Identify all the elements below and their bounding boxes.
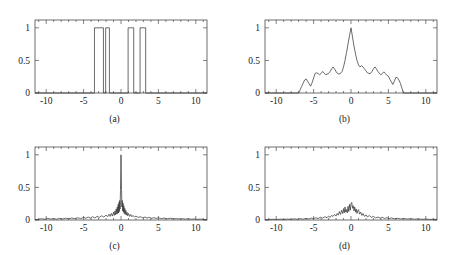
x-tick-label: -10: [40, 96, 53, 106]
y-tick-label: 0: [255, 88, 260, 98]
panel-a-yticklabels: 00.51: [18, 23, 30, 98]
x-tick-label: 10: [421, 223, 431, 233]
panel-a-xticks: [39, 20, 204, 93]
panel-c-yticklabels: 00.51: [18, 150, 30, 225]
x-tick-label: 0: [119, 223, 124, 233]
y-tick-label: 0.5: [18, 56, 30, 66]
panel-b-xticklabels: -10-50510: [270, 96, 431, 106]
panel-d-frame: [265, 147, 437, 220]
x-tick-label: 5: [156, 223, 161, 233]
panel-a-svg: -10-50510 00.51 (a): [0, 0, 229, 127]
panel-c-caption: (c): [109, 241, 120, 252]
panel-a-caption: (a): [109, 114, 120, 125]
y-tick-label: 0.5: [248, 183, 260, 193]
y-tick-label: 0.5: [248, 56, 260, 66]
figure-four-panel-signal-plots: -10-50510 00.51 (a) -10-50510 00.51 (b): [0, 0, 459, 255]
panel-d-yticklabels: 00.51: [248, 150, 260, 225]
panel-b: -10-50510 00.51 (b): [230, 0, 459, 127]
panel-c-axes: -10-50510 00.51: [18, 147, 207, 233]
panel-a: -10-50510 00.51 (a): [0, 0, 229, 127]
x-tick-label: 10: [191, 223, 201, 233]
y-tick-label: 1: [25, 23, 30, 33]
panel-b-yticklabels: 00.51: [248, 23, 260, 98]
x-tick-label: -5: [80, 223, 88, 233]
panel-c-xticklabels: -10-50510: [40, 223, 201, 233]
panel-d-xticks: [269, 147, 434, 220]
panel-b-frame: [265, 20, 437, 93]
x-tick-label: 0: [349, 96, 354, 106]
panel-d-yticks: [265, 155, 437, 220]
y-tick-label: 0.5: [18, 183, 30, 193]
y-tick-label: 0: [255, 215, 260, 225]
panel-d-xticklabels: -10-50510: [270, 223, 431, 233]
y-tick-label: 0: [25, 215, 30, 225]
panel-d-axes: -10-50510 00.51: [248, 147, 437, 233]
x-tick-label: -10: [270, 223, 283, 233]
x-tick-label: -10: [40, 223, 53, 233]
y-tick-label: 1: [25, 150, 30, 160]
panel-b-curve: [265, 28, 437, 93]
panel-a-curve: [35, 28, 207, 93]
x-tick-label: 10: [191, 96, 201, 106]
panel-b-caption: (b): [339, 114, 350, 125]
panel-b-xticks: [269, 20, 434, 93]
panel-a-yticks: [35, 28, 207, 93]
y-tick-label: 0: [25, 88, 30, 98]
x-tick-label: -5: [310, 96, 318, 106]
x-tick-label: -10: [270, 96, 283, 106]
panel-a-frame: [35, 20, 207, 93]
panel-d-svg: -10-50510 00.51 (d): [230, 127, 459, 254]
panel-d: -10-50510 00.51 (d): [230, 127, 459, 254]
x-tick-label: -5: [310, 223, 318, 233]
panel-b-svg: -10-50510 00.51 (b): [230, 0, 459, 127]
x-tick-label: 10: [421, 96, 431, 106]
panel-d-caption: (d): [339, 241, 350, 252]
x-tick-label: 5: [156, 96, 161, 106]
x-tick-label: 0: [349, 223, 354, 233]
panel-a-xticklabels: -10-50510: [40, 96, 201, 106]
x-tick-label: -5: [80, 96, 88, 106]
x-tick-label: 0: [119, 96, 124, 106]
x-tick-label: 5: [386, 96, 391, 106]
panel-c-curve: [35, 155, 207, 220]
panel-c-svg: -10-50510 00.51 (c): [0, 127, 229, 254]
y-tick-label: 1: [255, 23, 260, 33]
panel-b-yticks: [265, 28, 437, 93]
panel-c: -10-50510 00.51 (c): [0, 127, 229, 254]
y-tick-label: 1: [255, 150, 260, 160]
x-tick-label: 5: [386, 223, 391, 233]
